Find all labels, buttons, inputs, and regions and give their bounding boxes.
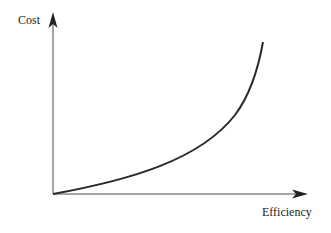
cost-curve (53, 42, 263, 194)
diagram-canvas (0, 0, 331, 233)
x-axis-label: Efficiency (262, 205, 312, 220)
y-axis-label: Cost (18, 13, 40, 28)
